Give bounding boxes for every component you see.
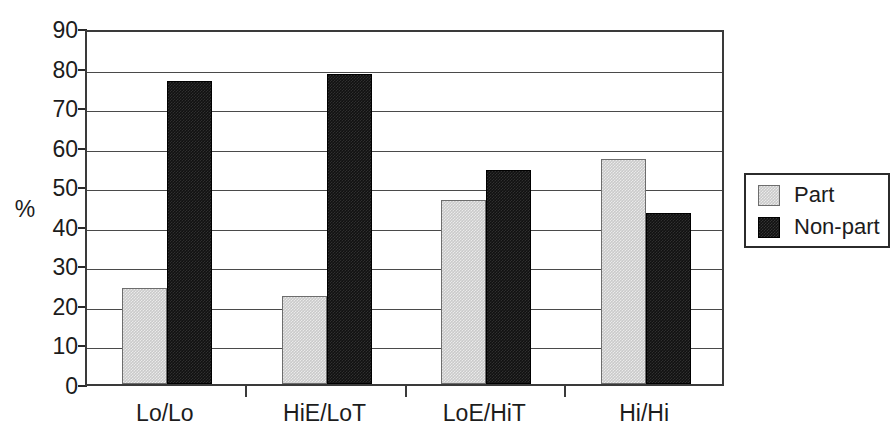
legend-item-part: Part <box>758 182 834 208</box>
x-axis-tick-mark <box>245 386 247 397</box>
x-axis-tick-mark <box>405 386 407 397</box>
bar-nonpart <box>646 213 691 384</box>
bar-nonpart <box>327 74 372 384</box>
bar-series-layer <box>87 32 722 384</box>
bar-part <box>601 159 646 384</box>
y-axis-tick-label: 70 <box>32 97 78 121</box>
legend-swatch-part <box>758 185 780 206</box>
legend: Part Non-part <box>744 173 890 248</box>
legend-label-part: Part <box>794 183 834 207</box>
y-axis-tick-label: 50 <box>32 176 78 200</box>
x-axis-tick-label: Hi/Hi <box>564 398 724 428</box>
bar-part <box>441 200 486 384</box>
bar-chart: % 0102030405060708090 Lo/LoHiE/LoTLoE/Hi… <box>0 0 892 438</box>
y-axis-tick-label: 10 <box>32 334 78 358</box>
x-axis-tick-label: Lo/Lo <box>85 398 245 428</box>
x-axis-tick-label: LoE/HiT <box>405 398 565 428</box>
bar-part <box>282 296 327 384</box>
y-axis-tick-label: 30 <box>32 255 78 279</box>
x-axis-tick-mark <box>564 386 566 397</box>
x-axis-tick-labels: Lo/LoHiE/LoTLoE/HiTHi/Hi <box>85 398 724 438</box>
bar-nonpart <box>167 81 212 384</box>
legend-swatch-non-part <box>758 217 780 238</box>
legend-item-non-part: Non-part <box>758 214 880 240</box>
y-axis-tick-label: 90 <box>32 18 78 42</box>
bar-part <box>122 288 167 384</box>
legend-label-non-part: Non-part <box>794 215 880 239</box>
x-axis-tick-marks <box>85 386 724 398</box>
y-axis-tick-label: 80 <box>32 58 78 82</box>
x-axis-tick-label: HiE/LoT <box>245 398 405 428</box>
plot-area <box>85 30 724 386</box>
bar-nonpart <box>486 170 531 384</box>
y-axis-tick-labels: 0102030405060708090 <box>26 0 78 438</box>
y-axis-tick-label: 20 <box>32 295 78 319</box>
y-axis-tick-label: 60 <box>32 137 78 161</box>
y-axis-tick-label: 40 <box>32 216 78 240</box>
y-axis-tick-label: 0 <box>32 374 78 398</box>
